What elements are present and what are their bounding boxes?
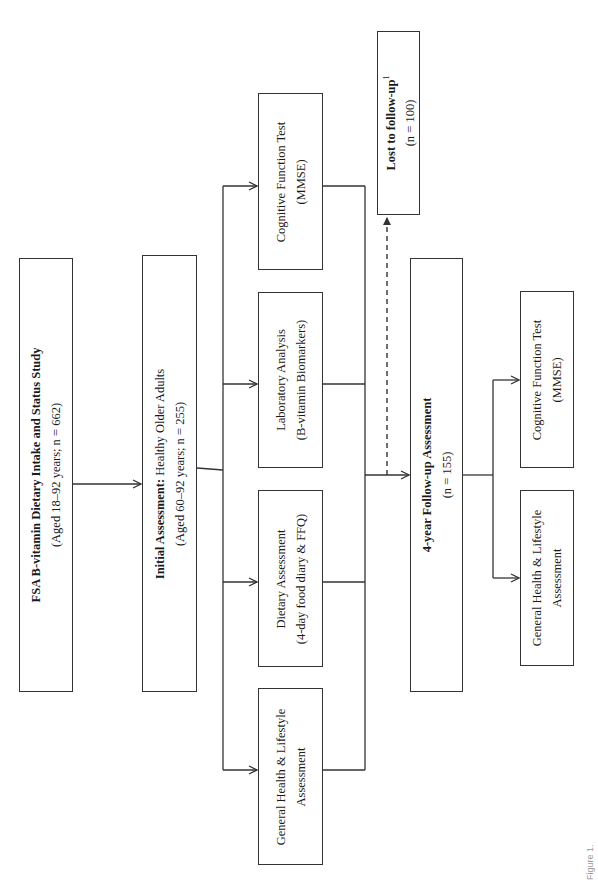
- box-initial-assessment: Initial Assessment: Healthy Older Adults…: [142, 255, 197, 692]
- followup-cognitive-text: Cognitive Function Test (MMSE): [527, 319, 567, 439]
- lost-subtitle: (n = 100): [403, 100, 417, 147]
- fsa-study-text: FSA B-vitamin Dietary Intake and Status …: [26, 348, 66, 603]
- label-line1: Laboratory Analysis: [274, 329, 288, 431]
- follow-up-text: 4-year Follow-up Assessment (n = 155): [417, 398, 457, 553]
- box-followup-cognitive: Cognitive Function Test (MMSE): [520, 291, 574, 468]
- initial-assessment-text: Initial Assessment: Healthy Older Adults…: [150, 368, 190, 578]
- label-line1: Cognitive Function Test: [530, 319, 544, 439]
- box-fsa-study: FSA B-vitamin Dietary Intake and Status …: [19, 258, 73, 692]
- follow-up-subtitle: (n = 155): [440, 452, 454, 499]
- box-baseline-cognitive: Cognitive Function Test (MMSE): [258, 93, 323, 270]
- follow-up-title: 4-year Follow-up Assessment: [420, 398, 434, 553]
- baseline-dietary-text: Dietary Assessment (4-day food diary & F…: [271, 513, 311, 644]
- baseline-general-health-text: General Health & Lifestyle Assessment: [271, 708, 311, 844]
- lost-to-follow-up-text: Lost to follow-up1 (n = 100): [377, 76, 420, 171]
- initial-assessment-title: Initial Assessment:: [153, 478, 167, 578]
- box-lost-to-follow-up: Lost to follow-up1 (n = 100): [377, 31, 420, 215]
- label-line1: Cognitive Function Test: [274, 121, 288, 241]
- box-baseline-laboratory: Laboratory Analysis (B-vitamin Biomarker…: [258, 292, 323, 468]
- fsa-study-subtitle: (Aged 18–92 years; n = 662): [49, 403, 63, 547]
- lost-title: Lost to follow-up: [383, 80, 397, 171]
- followup-general-health-text: General Health & Lifestyle Assessment: [527, 510, 567, 646]
- baseline-laboratory-text: Laboratory Analysis (B-vitamin Biomarker…: [271, 320, 311, 440]
- label-line2: Assessment: [294, 747, 308, 806]
- label-line2: Assessment: [550, 548, 564, 607]
- label-line1: General Health & Lifestyle: [530, 510, 544, 646]
- initial-assessment-subtitle: (Aged 60–92 years; n = 255): [173, 401, 187, 545]
- box-baseline-dietary: Dietary Assessment (4-day food diary & F…: [258, 490, 323, 667]
- baseline-cognitive-text: Cognitive Function Test (MMSE): [271, 121, 311, 241]
- label-line2: (MMSE): [550, 357, 564, 402]
- label-line2: (B-vitamin Biomarkers): [294, 320, 308, 440]
- box-follow-up: 4-year Follow-up Assessment (n = 155): [410, 258, 463, 692]
- figure-caption: Figure 1.: [585, 844, 595, 880]
- label-line1: Dietary Assessment: [274, 529, 288, 628]
- box-followup-general-health: General Health & Lifestyle Assessment: [520, 490, 574, 666]
- label-line2: (4-day food diary & FFQ): [294, 513, 308, 644]
- box-baseline-general-health: General Health & Lifestyle Assessment: [258, 688, 323, 865]
- label-line2: (MMSE): [294, 159, 308, 204]
- initial-assessment-title-rest: Healthy Older Adults: [153, 368, 167, 478]
- footnote-marker: 1: [382, 76, 391, 80]
- label-line1: General Health & Lifestyle: [274, 708, 288, 844]
- fsa-study-title: FSA B-vitamin Dietary Intake and Status …: [29, 348, 43, 603]
